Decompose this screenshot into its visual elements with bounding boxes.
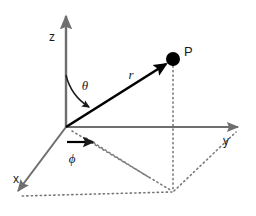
y-axis-label: y — [223, 134, 229, 148]
point-p-marker — [166, 52, 180, 66]
x-axis-label: x — [13, 172, 19, 186]
phi-angle-label: ϕ — [69, 151, 76, 166]
diagram-background — [0, 0, 256, 216]
z-axis-label: z — [49, 30, 55, 44]
point-p-label: P — [184, 44, 193, 59]
theta-angle-label: θ — [82, 78, 89, 93]
point-p-group — [166, 52, 180, 66]
spherical-coordinate-diagram: z y x r P θ ϕ — [0, 0, 256, 216]
diagram-canvas: z y x r P θ ϕ — [0, 0, 256, 216]
